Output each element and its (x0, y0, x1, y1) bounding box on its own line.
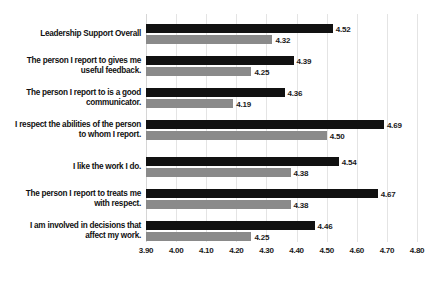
category-label: The person I report to treats mewith res… (0, 189, 141, 208)
bar-series-light (146, 67, 251, 76)
bar-value-label: 4.52 (336, 24, 351, 33)
bar-value-label: 4.25 (254, 67, 269, 76)
bar-row: 4.39 (146, 56, 417, 65)
axis-tick-label: 4.80 (410, 246, 424, 255)
bar-value-label: 4.38 (294, 200, 309, 209)
axis-tick-label: 4.00 (169, 246, 183, 255)
category-label: The person I report to is a goodcommunic… (0, 88, 141, 107)
bar-series-dark (146, 56, 294, 65)
bar-series-dark (146, 24, 333, 33)
axis-tick-label: 4.30 (259, 246, 273, 255)
axis-tick-label: 4.70 (380, 246, 394, 255)
bar-groups: 4.524.324.394.254.364.194.694.504.544.38… (146, 14, 417, 242)
bar-row: 4.52 (146, 24, 417, 33)
bar-series-light (146, 99, 233, 108)
category-label-line: with respect. (0, 199, 141, 209)
bar-row: 4.69 (146, 120, 417, 129)
category-label-line: I am involved in decisions that (0, 221, 141, 231)
horizontal-bar-chart: Leadership Support OverallThe person I r… (0, 0, 437, 287)
category-label-line: I respect the abilities of the person (0, 120, 141, 130)
bar-value-label: 4.25 (254, 232, 269, 241)
bar-row: 4.25 (146, 232, 417, 241)
category-label-line: useful feedback. (0, 66, 141, 76)
bar-value-label: 4.54 (342, 157, 357, 166)
bar-series-light (146, 232, 251, 241)
bar-row: 4.19 (146, 99, 417, 108)
bar-row: 4.25 (146, 67, 417, 76)
bar-group: 4.394.25 (146, 56, 417, 77)
bar-row: 4.50 (146, 131, 417, 140)
bar-series-light (146, 200, 291, 209)
axis-tick-label: 4.60 (350, 246, 364, 255)
axis-tick-label: 3.90 (139, 246, 153, 255)
category-label: Leadership Support Overall (0, 29, 141, 39)
bar-group: 4.694.50 (146, 120, 417, 141)
bar-series-dark (146, 189, 378, 198)
bar-group: 4.364.19 (146, 88, 417, 109)
axis-tick-label: 4.50 (319, 246, 333, 255)
bar-group: 4.544.38 (146, 157, 417, 178)
category-label: I respect the abilities of the personto … (0, 120, 141, 139)
bar-group: 4.524.32 (146, 24, 417, 45)
category-label: The person I report to gives meuseful fe… (0, 56, 141, 75)
bar-series-dark (146, 120, 384, 129)
bar-row: 4.32 (146, 35, 417, 44)
category-label-line: The person I report to is a good (0, 88, 141, 98)
bar-series-dark (146, 157, 339, 166)
axis-tick-label: 4.10 (199, 246, 213, 255)
category-label-line: Leadership Support Overall (0, 29, 141, 39)
gridline (417, 14, 418, 242)
bar-series-light (146, 131, 327, 140)
bar-group: 4.674.38 (146, 189, 417, 210)
category-label-line: communicator. (0, 98, 141, 108)
bar-row: 4.46 (146, 221, 417, 230)
category-label-line: I like the work I do. (0, 162, 141, 172)
axis-tick-label: 4.20 (229, 246, 243, 255)
bar-series-light (146, 168, 291, 177)
bar-row: 4.38 (146, 200, 417, 209)
bar-series-dark (146, 88, 285, 97)
bar-series-dark (146, 221, 315, 230)
category-label: I like the work I do. (0, 162, 141, 172)
category-label-line: to whom I report. (0, 130, 141, 140)
bar-value-label: 4.46 (318, 221, 333, 230)
bar-value-label: 4.38 (294, 168, 309, 177)
category-label-line: The person I report to gives me (0, 56, 141, 66)
bar-row: 4.54 (146, 157, 417, 166)
axis-tick-label: 4.40 (289, 246, 303, 255)
bar-value-label: 4.39 (297, 56, 312, 65)
plot-area: 4.524.324.394.254.364.194.694.504.544.38… (146, 14, 417, 242)
bar-value-label: 4.36 (288, 88, 303, 97)
bar-value-label: 4.50 (330, 131, 345, 140)
bar-series-light (146, 35, 272, 44)
category-label-line: affect my work. (0, 231, 141, 241)
category-label: I am involved in decisions thataffect my… (0, 221, 141, 240)
bar-value-label: 4.67 (381, 189, 396, 198)
bar-value-label: 4.19 (236, 99, 251, 108)
x-axis-tick-labels: 3.904.004.104.204.304.404.504.604.704.80 (146, 246, 417, 260)
category-label-line: The person I report to treats me (0, 189, 141, 199)
category-label-axis: Leadership Support OverallThe person I r… (0, 14, 141, 242)
bar-row: 4.38 (146, 168, 417, 177)
bar-value-label: 4.69 (387, 120, 402, 129)
bar-value-label: 4.32 (275, 35, 290, 44)
bar-row: 4.67 (146, 189, 417, 198)
bar-group: 4.464.25 (146, 221, 417, 242)
bar-row: 4.36 (146, 88, 417, 97)
